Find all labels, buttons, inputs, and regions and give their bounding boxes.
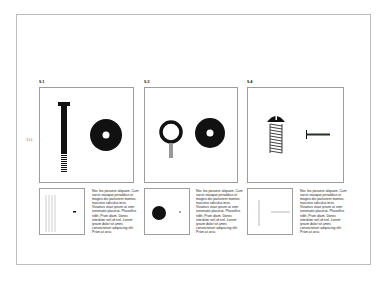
screw-icon <box>267 115 285 153</box>
eye-hook-icon <box>161 122 181 158</box>
bolt-and-washer-illustration <box>40 88 135 184</box>
figure-box-3 <box>247 87 344 183</box>
nail-icon <box>306 130 330 139</box>
figure-label-3: 9.4 <box>247 79 253 84</box>
filled-circle-icon <box>152 206 166 220</box>
caption-2: Nec leo posuere aliquam. Cum sociis nato… <box>196 189 244 234</box>
washer-icon <box>90 119 122 151</box>
figure-box-1 <box>39 87 134 183</box>
bolt-icon <box>58 102 70 172</box>
page-number: 114 <box>26 137 32 142</box>
small-mark-icon <box>73 211 76 213</box>
washer-icon <box>195 118 225 148</box>
thumbnail-box-1 <box>39 188 85 235</box>
caption-3: Nec leo posuere aliquam. Cum sociis nato… <box>300 189 348 234</box>
figure-label-1: 9.1 <box>39 79 45 84</box>
figure-box-2 <box>144 87 238 183</box>
caption-1: Nec leo posuere aliquam. Cum sociis nato… <box>92 189 140 234</box>
thumbnail-box-3 <box>247 188 293 235</box>
dot-icon <box>179 211 181 213</box>
figure-label-2: 9.3 <box>144 79 150 84</box>
thumbnail-box-2 <box>144 188 190 235</box>
vertical-lines-icon <box>46 195 55 232</box>
